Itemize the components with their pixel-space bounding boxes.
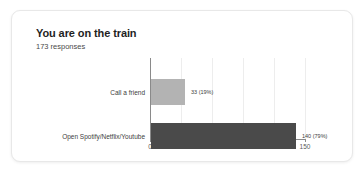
- x-axis-tick-label: 150: [300, 143, 311, 150]
- x-axis-tick-mark: [305, 139, 306, 142]
- bar[interactable]: [151, 123, 296, 149]
- bar-value-label: 33 (19%): [191, 89, 213, 95]
- survey-result-card: You are on the train 173 responses 03060…: [11, 10, 353, 162]
- bar-value-label: 140 (79%): [302, 133, 327, 139]
- gridline: [305, 58, 306, 139]
- bar-category-label: Call a friend: [110, 89, 145, 96]
- bar[interactable]: [151, 79, 185, 105]
- bar-chart: 0306090120150Call a friend33 (19%)Open S…: [12, 11, 353, 162]
- screenshot-root: You are on the train 173 responses 03060…: [0, 0, 364, 173]
- bar-category-label: Open Spotify/Netflix/Youtube: [62, 133, 145, 140]
